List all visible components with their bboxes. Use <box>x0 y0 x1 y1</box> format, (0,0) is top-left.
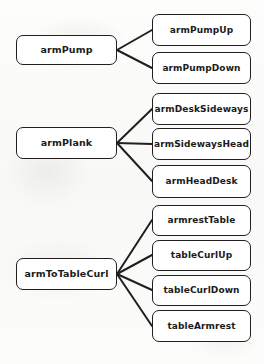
node-label: armSidewaysHead <box>154 140 249 149</box>
node-label: armPumpDown <box>162 64 240 73</box>
child-node-armPumpUp[interactable]: armPumpUp <box>152 14 251 46</box>
parent-node-armPump[interactable]: armPump <box>16 35 117 65</box>
edge-armPlank-to-armSidewaysHead <box>117 143 152 144</box>
edge-armPump-to-armPumpUp <box>117 30 152 50</box>
node-label: armPump <box>40 45 92 55</box>
child-node-armHeadDesk[interactable]: armHeadDesk <box>152 165 251 198</box>
edge-armToTableCurl-to-armrestTable <box>117 220 152 274</box>
node-label: armDeskSideways <box>155 105 249 114</box>
child-node-tableCurlUp[interactable]: tableCurlUp <box>152 240 251 271</box>
child-node-tableArmrest[interactable]: tableArmrest <box>152 310 251 342</box>
node-label: tableCurlDown <box>163 286 239 295</box>
node-label: armPlank <box>41 138 93 148</box>
child-node-armrestTable[interactable]: armrestTable <box>152 205 251 236</box>
edge-armPlank-to-armHeadDesk <box>117 143 152 181</box>
edge-armPump-to-armPumpDown <box>117 50 152 68</box>
child-node-tableCurlDown[interactable]: tableCurlDown <box>152 275 251 306</box>
node-label: armPumpUp <box>170 26 233 35</box>
node-label: armrestTable <box>168 216 236 225</box>
node-label: armToTableCurl <box>25 269 109 279</box>
diagram-canvas: armPumparmPlankarmToTableCurlarmPumpUpar… <box>0 0 264 364</box>
child-node-armDeskSideways[interactable]: armDeskSideways <box>152 93 251 125</box>
node-label: tableCurlUp <box>171 251 232 260</box>
edge-armPlank-to-armDeskSideways <box>117 109 152 143</box>
parent-node-armToTableCurl[interactable]: armToTableCurl <box>16 258 117 290</box>
node-label: armHeadDesk <box>165 177 237 186</box>
child-node-armSidewaysHead[interactable]: armSidewaysHead <box>152 128 251 160</box>
child-node-armPumpDown[interactable]: armPumpDown <box>152 52 251 84</box>
parent-node-armPlank[interactable]: armPlank <box>16 127 117 159</box>
node-label: tableArmrest <box>167 322 235 331</box>
